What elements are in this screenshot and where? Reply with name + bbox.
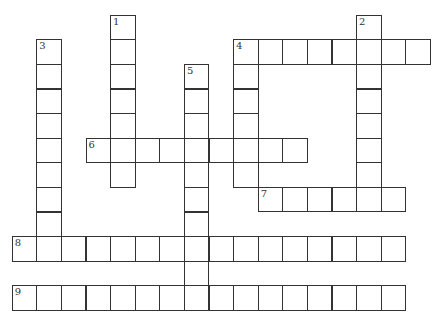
crossword-cell[interactable] (356, 39, 382, 65)
crossword-cell[interactable] (332, 236, 358, 262)
crossword-cell[interactable] (36, 64, 62, 90)
crossword-cell[interactable] (356, 64, 382, 90)
crossword-cell[interactable] (36, 187, 62, 213)
crossword-cell[interactable] (36, 138, 62, 164)
crossword-cell[interactable] (282, 187, 308, 213)
crossword-cell[interactable] (356, 236, 382, 262)
crossword-cell[interactable] (233, 89, 259, 115)
crossword-cell[interactable]: 5 (184, 64, 210, 90)
crossword-cell[interactable]: 3 (36, 39, 62, 65)
crossword-cell[interactable] (61, 285, 87, 311)
crossword-cell[interactable] (356, 162, 382, 188)
crossword-cell[interactable]: 1 (110, 15, 136, 41)
crossword-cell[interactable] (184, 236, 210, 262)
crossword-cell[interactable] (184, 212, 210, 238)
clue-number: 6 (89, 139, 95, 151)
crossword-cell[interactable] (258, 285, 284, 311)
crossword-cell[interactable] (233, 162, 259, 188)
crossword-cell[interactable] (159, 138, 185, 164)
crossword-cell[interactable] (233, 64, 259, 90)
crossword-cell[interactable] (36, 89, 62, 115)
crossword-cell[interactable] (61, 236, 87, 262)
crossword-cell[interactable] (135, 285, 161, 311)
crossword-cell[interactable] (36, 162, 62, 188)
crossword-cell[interactable] (110, 138, 136, 164)
crossword-cell[interactable] (233, 113, 259, 139)
crossword-cell[interactable] (184, 261, 210, 287)
crossword-cell[interactable]: 4 (233, 39, 259, 65)
crossword-cell[interactable] (233, 138, 259, 164)
crossword-cell[interactable] (110, 162, 136, 188)
crossword-cell[interactable] (36, 285, 62, 311)
crossword-cell[interactable] (307, 187, 333, 213)
crossword-cell[interactable] (332, 285, 358, 311)
crossword-cell[interactable]: 6 (86, 138, 112, 164)
crossword-cell[interactable] (307, 236, 333, 262)
crossword-cell[interactable] (110, 113, 136, 139)
crossword-cell[interactable] (282, 236, 308, 262)
crossword-cell[interactable] (307, 39, 333, 65)
crossword-cell[interactable] (159, 236, 185, 262)
crossword-cell[interactable] (381, 236, 407, 262)
crossword-cell[interactable] (332, 187, 358, 213)
clue-number: 4 (236, 40, 242, 52)
crossword-cell[interactable] (209, 285, 235, 311)
crossword-cell[interactable] (135, 236, 161, 262)
crossword-cell[interactable] (381, 187, 407, 213)
clue-number: 8 (15, 237, 21, 249)
clue-number: 5 (187, 65, 193, 77)
crossword-cell[interactable] (381, 39, 407, 65)
crossword-cell[interactable] (258, 39, 284, 65)
crossword-cell[interactable] (36, 212, 62, 238)
crossword-cell[interactable] (405, 39, 431, 65)
crossword-cell[interactable] (356, 285, 382, 311)
crossword-cell[interactable] (86, 236, 112, 262)
crossword-cell[interactable] (307, 285, 333, 311)
crossword-cell[interactable] (184, 113, 210, 139)
crossword-cell[interactable] (282, 285, 308, 311)
crossword-cell[interactable] (110, 236, 136, 262)
crossword-cell[interactable]: 8 (12, 236, 38, 262)
crossword-cell[interactable] (332, 39, 358, 65)
crossword-cell[interactable] (233, 236, 259, 262)
crossword-cell[interactable] (184, 285, 210, 311)
crossword-cell[interactable] (110, 39, 136, 65)
crossword-cell[interactable] (282, 39, 308, 65)
clue-number: 3 (39, 40, 45, 52)
crossword-cell[interactable] (110, 89, 136, 115)
crossword-cell[interactable]: 9 (12, 285, 38, 311)
crossword-cell[interactable] (110, 64, 136, 90)
crossword-cell[interactable] (209, 236, 235, 262)
crossword-cell[interactable] (110, 285, 136, 311)
crossword-cell[interactable] (356, 113, 382, 139)
crossword-cell[interactable] (233, 285, 259, 311)
crossword-cell[interactable] (184, 89, 210, 115)
crossword-cell[interactable] (258, 236, 284, 262)
crossword-cell[interactable] (356, 138, 382, 164)
crossword-cell[interactable] (381, 285, 407, 311)
clue-number: 7 (261, 188, 267, 200)
clue-number: 9 (15, 286, 21, 298)
crossword-cell[interactable] (184, 187, 210, 213)
crossword-cell[interactable] (36, 113, 62, 139)
crossword-cell[interactable]: 2 (356, 15, 382, 41)
crossword-cell[interactable] (356, 89, 382, 115)
clue-number: 2 (359, 16, 365, 28)
crossword-cell[interactable] (209, 138, 235, 164)
crossword-cell[interactable] (86, 285, 112, 311)
clue-number: 1 (113, 16, 119, 28)
crossword-cell[interactable] (135, 138, 161, 164)
crossword-grid: 123456789 (0, 0, 440, 331)
crossword-cell[interactable] (356, 187, 382, 213)
crossword-cell[interactable]: 7 (258, 187, 284, 213)
crossword-cell[interactable] (36, 236, 62, 262)
crossword-cell[interactable] (184, 138, 210, 164)
crossword-cell[interactable] (159, 285, 185, 311)
crossword-cell[interactable] (184, 162, 210, 188)
crossword-cell[interactable] (258, 138, 284, 164)
crossword-cell[interactable] (282, 138, 308, 164)
